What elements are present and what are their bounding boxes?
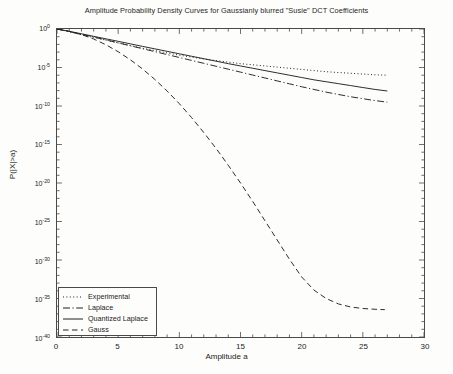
x-tick-label: 5 bbox=[103, 342, 133, 351]
legend-item-gauss[interactable]: Gauss bbox=[59, 324, 156, 335]
y-tick-label: 10-30 bbox=[6, 256, 50, 265]
y-tick-label: 10-35 bbox=[6, 294, 50, 303]
y-tick-label: 10-40 bbox=[6, 333, 50, 342]
x-tick-label: 30 bbox=[410, 342, 440, 351]
y-axis-label: P(|X|>a) bbox=[8, 125, 17, 205]
y-tick-label: 10-25 bbox=[6, 217, 50, 226]
legend-item-label: Gauss bbox=[88, 325, 109, 335]
y-tick-label: 100 bbox=[6, 23, 50, 32]
legend-line-sample-icon bbox=[62, 303, 84, 313]
legend-item-label: Quantized Laplace bbox=[88, 314, 148, 324]
legend-item-experimental[interactable]: Experimental bbox=[59, 291, 156, 302]
y-tick-label: 10-5 bbox=[6, 62, 50, 71]
legend-box: ExperimentalLaplaceQuantized LaplaceGaus… bbox=[58, 287, 157, 336]
legend-line-sample-icon bbox=[62, 314, 84, 324]
legend-item-laplace[interactable]: Laplace bbox=[59, 302, 156, 313]
y-tick-label: 10-10 bbox=[6, 101, 50, 110]
x-tick-label: 15 bbox=[226, 342, 256, 351]
legend-item-label: Laplace bbox=[88, 303, 113, 313]
legend-line-sample-icon bbox=[62, 325, 84, 335]
series-path-gauss bbox=[57, 29, 385, 310]
x-tick-label: 0 bbox=[41, 342, 71, 351]
legend-line-sample-icon bbox=[62, 292, 84, 302]
legend-item-label: Experimental bbox=[88, 292, 130, 302]
data-series-group bbox=[57, 29, 387, 310]
x-tick-label: 25 bbox=[349, 342, 379, 351]
series-path-quantized-laplace bbox=[57, 29, 387, 91]
x-tick-label: 20 bbox=[287, 342, 317, 351]
legend-item-quantized-laplace[interactable]: Quantized Laplace bbox=[59, 313, 156, 324]
series-path-experimental bbox=[57, 29, 387, 75]
figure-canvas: Amplitude Probability Density Curves for… bbox=[0, 0, 453, 374]
chart-title: Amplitude Probability Density Curves for… bbox=[0, 6, 453, 15]
x-axis-label: Amplitude a bbox=[0, 352, 453, 361]
x-tick-label: 10 bbox=[164, 342, 194, 351]
